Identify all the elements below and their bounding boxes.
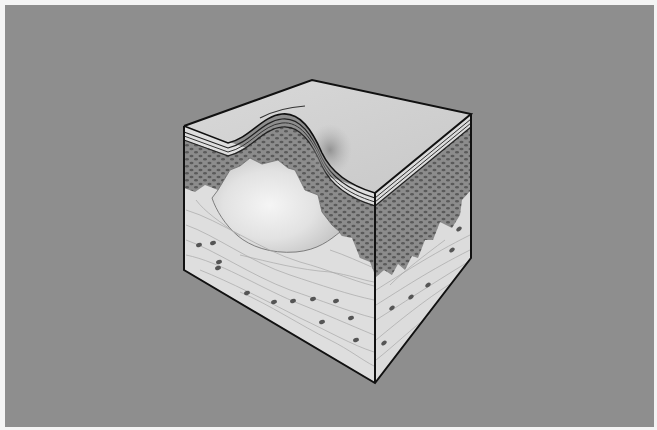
blister-shadow xyxy=(308,124,352,176)
skin-block-illustration xyxy=(0,0,657,430)
